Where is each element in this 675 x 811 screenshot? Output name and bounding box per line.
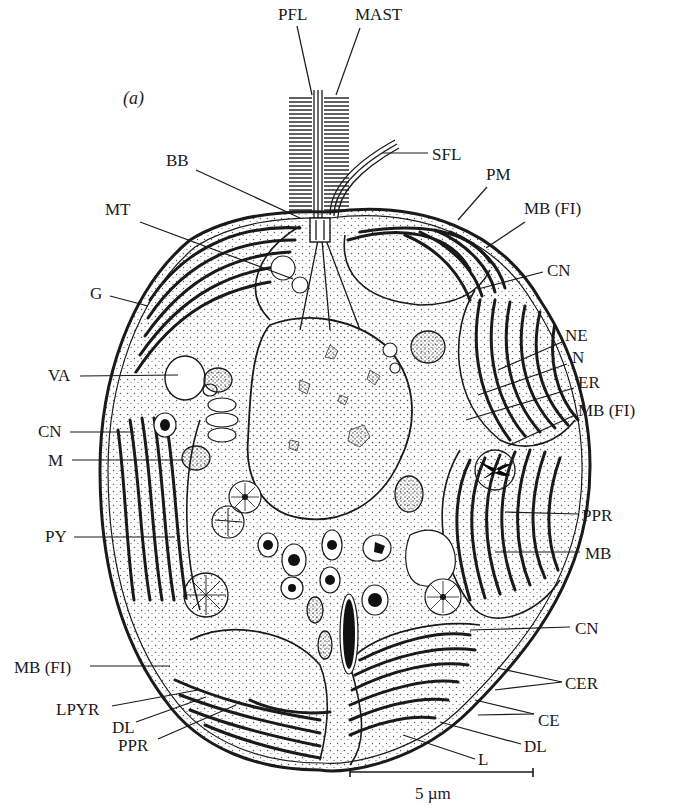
- label-mast: MAST: [355, 5, 403, 24]
- label-cn-2: CN: [38, 422, 62, 441]
- leader-line: [495, 682, 562, 690]
- label-dl-2: DL: [524, 737, 547, 756]
- label-pfl: PFL: [278, 5, 307, 24]
- label-mb-fi-3: MB (FI): [14, 658, 71, 677]
- leader-line: [486, 222, 525, 248]
- label-va: VA: [48, 366, 71, 385]
- label-mb: MB: [585, 544, 611, 563]
- label-mb-fi-2: MB (FI): [578, 401, 635, 420]
- label-ne: NE: [565, 326, 588, 345]
- leader-line: [297, 26, 312, 95]
- label-m: M: [48, 451, 63, 470]
- leader-line: [458, 187, 487, 220]
- leader-line: [440, 722, 521, 744]
- label-lpyr: LPYR: [56, 700, 100, 719]
- leader-line: [336, 28, 360, 95]
- cell-diagram-figure: (a) PFLMASTSFLBBPMMB (FI)MTCNGNENVAERMB …: [0, 0, 675, 811]
- label-er: ER: [578, 373, 600, 392]
- label-mt: MT: [105, 200, 131, 219]
- label-dl-1: DL: [112, 718, 135, 737]
- scale-bar-label: 5 µm: [415, 784, 451, 803]
- label-sfl: SFL: [432, 145, 461, 164]
- label-g: G: [90, 284, 102, 303]
- label-py: PY: [45, 527, 67, 546]
- label-bb: BB: [166, 151, 189, 170]
- label-pm: PM: [486, 165, 511, 184]
- leader-line: [196, 170, 300, 218]
- label-cn-1: CN: [547, 261, 571, 280]
- label-mb-fi-1: MB (FI): [524, 199, 581, 218]
- label-n: N: [572, 348, 584, 367]
- leader-line: [475, 700, 534, 714]
- basal-body-region: [310, 218, 330, 242]
- label-cer: CER: [565, 674, 599, 693]
- label-cn-3: CN: [575, 619, 599, 638]
- label-ppr-1: PPR: [582, 506, 613, 525]
- leader-line: [497, 668, 562, 682]
- label-l: L: [478, 750, 488, 769]
- scale-bar: 5 µm: [350, 768, 533, 803]
- leader-line: [478, 714, 534, 715]
- label-ppr-2: PPR: [118, 736, 149, 755]
- label-ce: CE: [538, 711, 560, 730]
- panel-label: (a): [123, 88, 144, 109]
